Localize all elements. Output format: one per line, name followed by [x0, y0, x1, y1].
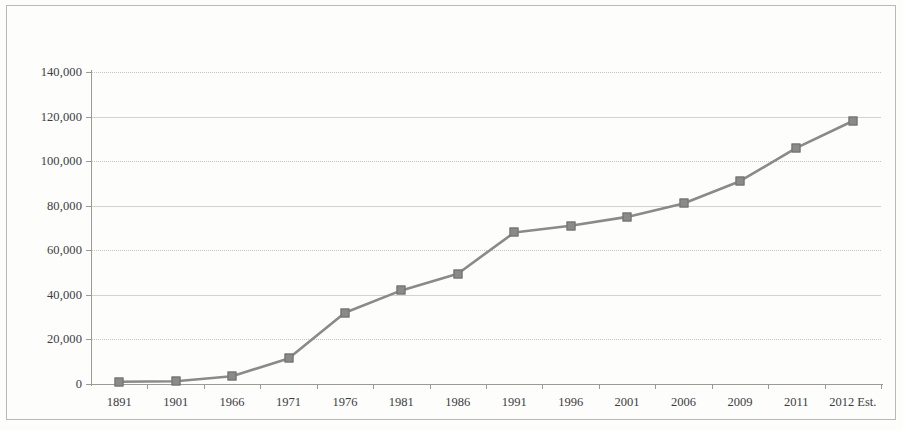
chart-page: 020,00040,00060,00080,000100,000120,0001…: [0, 0, 903, 431]
data-point-marker: [228, 372, 237, 381]
data-point-marker: [510, 228, 519, 237]
data-point-marker: [566, 221, 575, 230]
data-point-marker: [623, 212, 632, 221]
data-point-marker: [735, 177, 744, 186]
line-chart: 020,00040,00060,00080,000100,000120,0001…: [0, 0, 903, 431]
data-point-marker: [171, 377, 180, 386]
data-point-marker: [397, 286, 406, 295]
data-point-marker: [453, 269, 462, 278]
data-point-marker: [284, 354, 293, 363]
data-point-marker: [848, 117, 857, 126]
series-line: [0, 0, 903, 431]
data-point-marker: [115, 377, 124, 386]
data-point-marker: [679, 199, 688, 208]
data-point-marker: [792, 143, 801, 152]
data-point-marker: [340, 308, 349, 317]
